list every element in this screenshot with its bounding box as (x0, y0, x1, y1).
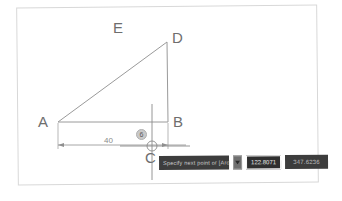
dimension-arrow-left (58, 143, 64, 147)
dimension-value-label[interactable]: 40 (104, 137, 113, 145)
triangle-geometry[interactable] (58, 42, 168, 122)
linear-dimension-AB[interactable] (58, 123, 186, 149)
vertex-label-A: A (38, 114, 48, 129)
sketch-canvas[interactable] (0, 0, 342, 201)
edge-AD[interactable] (58, 42, 167, 122)
edge-DB[interactable] (167, 42, 168, 122)
screenshot-root: A B C D E 40 6 Specify next point or [Ar… (0, 0, 342, 201)
chevron-down-icon[interactable] (233, 155, 242, 169)
constraint-badge[interactable]: 6 (136, 129, 147, 140)
vertex-label-D: D (172, 30, 183, 45)
dynamic-input-toolbar[interactable]: Specify next point or [Arc/Close/Undo]: … (159, 155, 328, 170)
vertex-label-C: C (145, 150, 156, 165)
length-input[interactable]: 122.8071 (246, 155, 281, 169)
vertex-label-E: E (113, 20, 123, 35)
angle-input[interactable]: 347.6236 (285, 155, 328, 169)
vertex-label-B: B (173, 114, 183, 129)
command-prompt-text: Specify next point or [Arc/Close/Undo]: (159, 156, 229, 170)
